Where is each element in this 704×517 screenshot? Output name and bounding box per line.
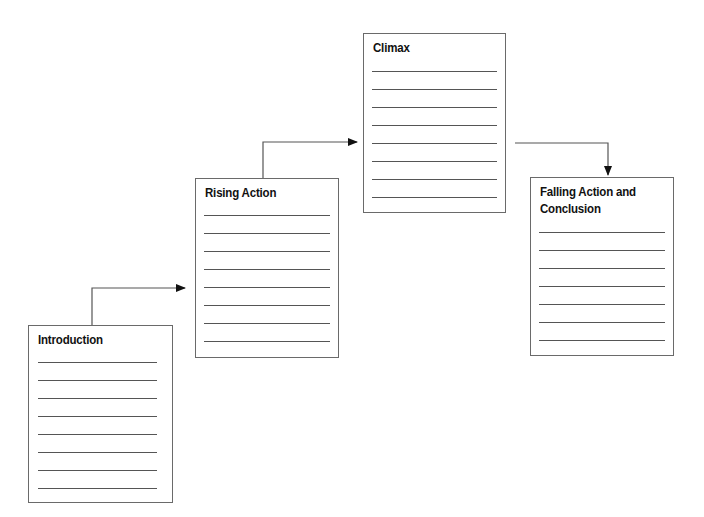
writing-line	[539, 286, 665, 287]
writing-line	[204, 251, 330, 252]
writing-line	[372, 71, 497, 72]
writing-line	[38, 452, 157, 453]
writing-line	[204, 323, 330, 324]
writing-line	[539, 322, 665, 323]
writing-line	[204, 305, 330, 306]
stage-climax: Climax	[363, 33, 506, 213]
writing-line	[539, 250, 665, 251]
writing-line	[539, 304, 665, 305]
writing-line	[204, 269, 330, 270]
writing-line	[372, 197, 497, 198]
writing-line	[38, 488, 157, 489]
stage-title: Rising Action	[205, 185, 276, 202]
writing-line	[539, 268, 665, 269]
writing-line	[204, 215, 330, 216]
stage-rising-action: Rising Action	[195, 178, 339, 358]
writing-line	[372, 161, 497, 162]
writing-line	[204, 233, 330, 234]
writing-line	[372, 179, 497, 180]
writing-line	[539, 232, 665, 233]
writing-line	[38, 434, 157, 435]
arrow-climax-to-falling	[515, 143, 608, 175]
stage-falling-action: Falling Action and Conclusion	[530, 177, 674, 356]
arrow-intro-to-rising	[92, 288, 185, 325]
writing-line	[38, 470, 157, 471]
writing-line	[38, 380, 157, 381]
writing-line	[372, 143, 497, 144]
arrow-rising-to-climax	[263, 142, 357, 178]
stage-title: Introduction	[38, 332, 103, 349]
writing-line	[38, 362, 157, 363]
stage-introduction: Introduction	[28, 325, 173, 503]
writing-line	[204, 287, 330, 288]
stage-title: Falling Action and Conclusion	[540, 184, 678, 218]
writing-line	[38, 416, 157, 417]
writing-line	[372, 89, 497, 90]
writing-line	[38, 398, 157, 399]
writing-line	[539, 340, 665, 341]
writing-line	[372, 125, 497, 126]
writing-line	[204, 341, 330, 342]
writing-line	[372, 107, 497, 108]
stage-title: Climax	[373, 40, 410, 57]
